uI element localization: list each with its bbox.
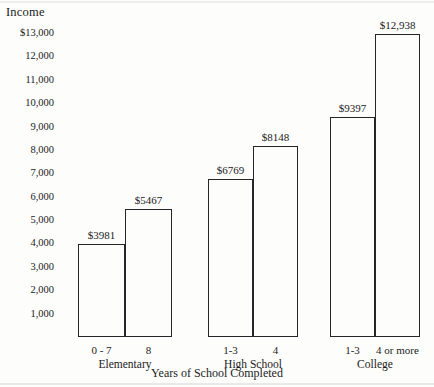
bar-category-label: 4 <box>273 345 279 356</box>
group-label: Elementary <box>98 358 151 370</box>
bar-category-label: 8 <box>146 345 152 356</box>
bar-value-label: $12,938 <box>380 20 416 31</box>
page-bottom-rule <box>0 383 434 385</box>
bar <box>375 34 420 337</box>
bar-category-label: 0 - 7 <box>91 345 111 356</box>
bar <box>208 179 253 337</box>
bar-value-label: $5467 <box>135 195 163 206</box>
bar-value-label: $9397 <box>339 103 367 114</box>
bar-value-label: $6769 <box>217 165 245 176</box>
bar <box>78 244 125 337</box>
bar-value-label: $3981 <box>88 230 116 241</box>
group-label: College <box>357 358 393 370</box>
bar <box>330 117 375 337</box>
bar-category-label: 4 or more <box>376 345 419 356</box>
bar-value-label: $8148 <box>262 132 290 143</box>
bar <box>253 146 298 337</box>
chart-page: Income $13,00012,00011,00010,0009,0008,0… <box>0 0 434 387</box>
bar-category-label: 1-3 <box>223 345 238 356</box>
bar-category-label: 1-3 <box>345 345 360 356</box>
plot-area: $39810 - 7$54678Elementary$67691-3$81484… <box>0 0 434 387</box>
x-axis-title: Years of School Completed <box>151 366 283 381</box>
bar <box>125 209 172 337</box>
